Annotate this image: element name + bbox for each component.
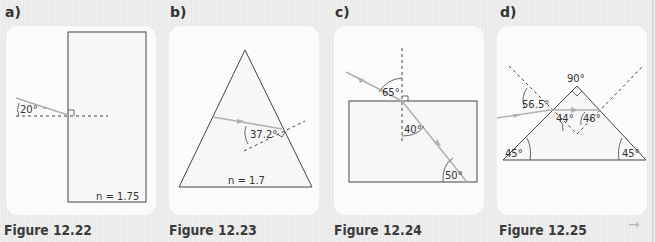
refraction-diagram-triangle-prism: 37.2° n = 1.7: [169, 26, 319, 215]
panel-a: a) 20° n = 1.75 Figure 12.22: [0, 0, 160, 242]
figure-caption: Figure 12.24: [334, 222, 422, 238]
angle-label: 20°: [20, 104, 38, 115]
figure-card: 20° n = 1.75: [6, 26, 156, 215]
ray-arrow-icon: [43, 106, 50, 109]
refraction-diagram-rectangle-block: 65° 40° 50°: [334, 26, 484, 215]
panel-letter: d): [500, 4, 516, 20]
figure-caption: Figure 12.25: [499, 222, 587, 238]
angle-label: 90°: [567, 73, 585, 84]
panel-letter: c): [335, 4, 350, 20]
angle-label: 65°: [382, 87, 400, 98]
refractive-index-label: n = 1.7: [228, 175, 265, 186]
refractive-index-label: n = 1.75: [96, 191, 139, 202]
refraction-diagram-rectangle-block: 20° n = 1.75: [6, 26, 156, 215]
figure-card: 65° 40° 50°: [334, 26, 484, 215]
panel-letter: b): [170, 4, 186, 20]
page-edge-divider: [652, 0, 654, 242]
angle-label: 50°: [445, 170, 463, 181]
refraction-diagram-right-angle-prism: 90° 56.5° 44° 46° 45° 45°: [497, 26, 647, 215]
panel-letter: a): [5, 4, 21, 20]
figure-card: 37.2° n = 1.7: [169, 26, 319, 215]
right-angle-icon: [402, 96, 408, 101]
panel-b: b) 37.2° n = 1.7 Figure 12.23: [165, 0, 325, 242]
next-arrow-icon[interactable]: →: [628, 216, 640, 232]
figure-caption: Figure 12.22: [4, 222, 92, 238]
angle-label: 45°: [505, 148, 523, 159]
angle-label: 40°: [404, 124, 422, 135]
angle-label: 44°: [556, 113, 574, 124]
panel-c: c) 65° 40° 50° Figure 12.24: [330, 0, 490, 242]
figure-card: 90° 56.5° 44° 46° 45° 45°: [497, 26, 647, 215]
figure-caption: Figure 12.23: [169, 222, 257, 238]
angle-label: 46°: [583, 113, 601, 124]
panel-d: d) 90° 56.5° 44° 46° 45° 45° Figure 12.2…: [495, 0, 655, 242]
angle-label: 37.2°: [250, 129, 277, 140]
angle-label: 56.5°: [522, 99, 549, 110]
angle-label: 45°: [622, 148, 640, 159]
